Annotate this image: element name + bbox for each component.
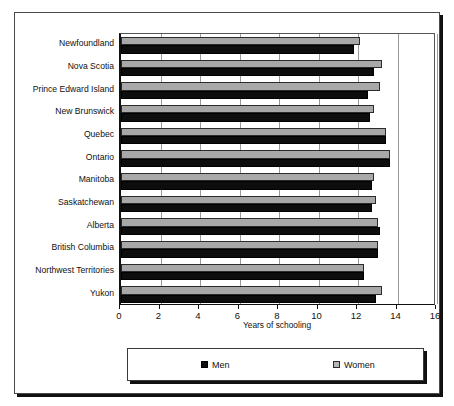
x-axis-tick bbox=[317, 305, 318, 309]
bar-women bbox=[121, 218, 378, 226]
x-axis-tick bbox=[277, 305, 278, 309]
category-label: Newfoundland bbox=[59, 39, 114, 48]
gridline bbox=[437, 34, 438, 304]
gray-square-icon bbox=[333, 361, 340, 368]
bar-women bbox=[121, 128, 386, 136]
x-axis-tick bbox=[396, 305, 397, 309]
legend-entry-women: Women bbox=[333, 360, 375, 370]
chart-figure: NewfoundlandNova ScotiaPrince Edward Isl… bbox=[0, 0, 454, 406]
category-label: Northwest Territories bbox=[35, 266, 114, 275]
bar-women bbox=[121, 150, 390, 158]
x-axis-tick bbox=[435, 305, 436, 309]
bar-men bbox=[121, 91, 368, 99]
category-label: Quebec bbox=[84, 130, 114, 139]
x-axis-tick bbox=[159, 305, 160, 309]
black-square-icon bbox=[201, 361, 208, 368]
legend-label-women: Women bbox=[344, 360, 375, 370]
bar-men bbox=[121, 249, 378, 257]
bar-men bbox=[121, 204, 372, 212]
category-label: Yukon bbox=[90, 289, 114, 298]
bar-women bbox=[121, 173, 374, 181]
category-label: Manitoba bbox=[79, 175, 114, 184]
bar-men bbox=[121, 295, 376, 303]
bar-men bbox=[121, 272, 364, 280]
bar-series-container bbox=[121, 34, 434, 304]
category-label: Saskatchewan bbox=[58, 198, 114, 207]
legend-label-men: Men bbox=[212, 360, 230, 370]
category-label: New Brunswick bbox=[55, 107, 114, 116]
x-axis-tick bbox=[238, 305, 239, 309]
bar-women bbox=[121, 196, 376, 204]
bar-women bbox=[121, 264, 364, 272]
bar-men bbox=[121, 113, 370, 121]
category-label: British Columbia bbox=[51, 243, 114, 252]
bar-women bbox=[121, 241, 378, 249]
x-axis-tick bbox=[356, 305, 357, 309]
x-axis-title: Years of schooling bbox=[119, 320, 435, 330]
bar-men bbox=[121, 181, 372, 189]
category-axis-labels: NewfoundlandNova ScotiaPrince Edward Isl… bbox=[14, 33, 117, 305]
bar-men bbox=[121, 136, 386, 144]
bar-men bbox=[121, 227, 380, 235]
category-label: Nova Scotia bbox=[68, 62, 114, 71]
bar-men bbox=[121, 45, 354, 53]
bar-women bbox=[121, 105, 374, 113]
category-label: Alberta bbox=[87, 221, 114, 230]
x-axis-tick bbox=[198, 305, 199, 309]
bar-women bbox=[121, 286, 382, 294]
plot-area bbox=[119, 33, 435, 305]
legend-entry-men: Men bbox=[201, 360, 230, 370]
bar-women bbox=[121, 82, 380, 90]
category-label: Prince Edward Island bbox=[33, 85, 114, 94]
bar-men bbox=[121, 159, 390, 167]
chart-legend: Men Women bbox=[127, 348, 424, 381]
bar-women bbox=[121, 37, 360, 45]
x-axis-tick bbox=[119, 305, 120, 309]
bar-men bbox=[121, 68, 374, 76]
bar-women bbox=[121, 60, 382, 68]
category-label: Ontario bbox=[86, 153, 114, 162]
